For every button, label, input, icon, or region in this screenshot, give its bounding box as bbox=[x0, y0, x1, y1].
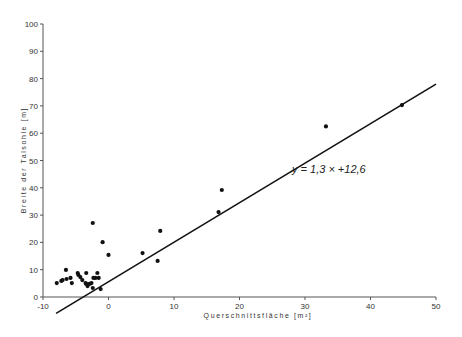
data-point bbox=[84, 271, 88, 275]
data-point bbox=[64, 268, 68, 272]
data-point bbox=[216, 210, 220, 214]
data-point bbox=[324, 124, 328, 128]
data-point bbox=[220, 188, 224, 192]
y-tick-label: 100 bbox=[25, 20, 39, 29]
data-point bbox=[101, 240, 105, 244]
y-axis-label: Breite der Talsohle [m] bbox=[20, 107, 28, 213]
y-ticks: 0102030405060708090100 bbox=[25, 20, 43, 302]
x-tick-label: -10 bbox=[37, 302, 49, 311]
data-point bbox=[68, 276, 72, 280]
y-tick-label: 10 bbox=[29, 266, 38, 275]
y-tick-label: 70 bbox=[29, 102, 38, 111]
data-points bbox=[55, 103, 404, 291]
data-point bbox=[91, 221, 95, 225]
regression-equation: y = 1,3 × +12,6 bbox=[291, 163, 367, 175]
axes: 0102030405060708090100 -1001020304050 bbox=[25, 20, 441, 311]
x-tick-label: 10 bbox=[170, 302, 179, 311]
x-tick-label: 50 bbox=[432, 302, 441, 311]
x-tick-label: 30 bbox=[301, 302, 310, 311]
data-point bbox=[140, 251, 144, 255]
data-point bbox=[158, 229, 162, 233]
data-point bbox=[91, 286, 95, 290]
x-axis-label: Querschnittsfläche [m²] bbox=[204, 312, 313, 320]
data-point bbox=[95, 271, 99, 275]
y-tick-label: 20 bbox=[29, 238, 38, 247]
y-tick-label: 40 bbox=[29, 184, 38, 193]
y-tick-label: 90 bbox=[29, 47, 38, 56]
data-point bbox=[70, 281, 74, 285]
data-point bbox=[55, 281, 59, 285]
y-tick-label: 50 bbox=[29, 157, 38, 166]
data-point bbox=[400, 103, 404, 107]
data-point bbox=[106, 253, 110, 257]
x-tick-label: 20 bbox=[235, 302, 244, 311]
scatter-chart: 0102030405060708090100 -1001020304050 y … bbox=[0, 0, 462, 337]
data-point bbox=[64, 277, 68, 281]
x-tick-label: 40 bbox=[366, 302, 375, 311]
y-tick-label: 30 bbox=[29, 211, 38, 220]
regression-line bbox=[56, 84, 436, 313]
y-tick-label: 0 bbox=[34, 293, 39, 302]
data-point bbox=[91, 276, 95, 280]
data-point bbox=[99, 287, 103, 291]
data-point bbox=[61, 278, 65, 282]
y-tick-label: 80 bbox=[29, 75, 38, 84]
data-point bbox=[89, 281, 93, 285]
data-point bbox=[156, 259, 160, 263]
y-tick-label: 60 bbox=[29, 129, 38, 138]
data-point bbox=[80, 278, 84, 282]
x-tick-label: 0 bbox=[106, 302, 111, 311]
x-ticks: -1001020304050 bbox=[37, 297, 441, 311]
